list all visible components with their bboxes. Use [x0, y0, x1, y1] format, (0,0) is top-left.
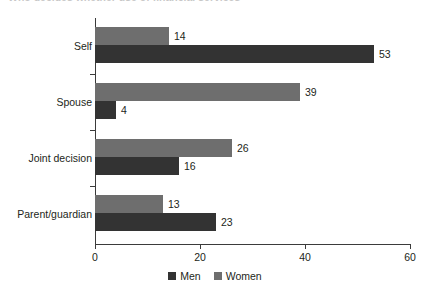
legend-swatch-men-icon: [168, 272, 176, 280]
bar-value-spouse-men: 4: [121, 104, 127, 116]
category-label-joint: Joint decision: [28, 152, 92, 164]
x-axis-line: [95, 244, 411, 245]
bar-self-women: [95, 27, 169, 45]
plot-area: 0 20 40 60 Self Spouse Joint decision Pa…: [0, 0, 430, 295]
category-label-spouse: Spouse: [56, 96, 92, 108]
legend-label-men: Men: [180, 270, 200, 282]
x-axis-tick: [200, 244, 201, 249]
x-axis-label-60: 60: [404, 251, 416, 263]
bar-value-parent-women: 13: [168, 198, 180, 210]
bar-spouse-women: [95, 83, 300, 101]
y-axis-tick: [90, 130, 95, 131]
legend-swatch-women-icon: [214, 272, 222, 280]
x-axis-label-20: 20: [194, 251, 206, 263]
legend-item-men[interactable]: Men: [168, 270, 200, 282]
x-axis-label-0: 0: [92, 251, 98, 263]
chart-legend: Men Women: [0, 270, 430, 282]
x-axis-tick: [95, 244, 96, 249]
category-label-parent: Parent/guardian: [17, 208, 92, 220]
y-axis-tick: [90, 186, 95, 187]
bar-value-spouse-women: 39: [305, 86, 317, 98]
bar-parent-men: [95, 213, 216, 231]
bar-joint-women: [95, 139, 232, 157]
x-axis-label-40: 40: [299, 251, 311, 263]
bar-spouse-men: [95, 101, 116, 119]
bar-value-joint-women: 26: [237, 142, 249, 154]
bar-value-self-women: 14: [174, 30, 186, 42]
bar-value-self-men: 53: [379, 48, 391, 60]
bar-joint-men: [95, 157, 179, 175]
legend-label-women: Women: [226, 270, 262, 282]
legend-item-women[interactable]: Women: [214, 270, 262, 282]
bar-self-men: [95, 45, 374, 63]
bar-value-parent-men: 23: [221, 216, 233, 228]
x-axis-tick: [305, 244, 306, 249]
bar-value-joint-men: 16: [184, 160, 196, 172]
bar-parent-women: [95, 195, 163, 213]
chart-container: Who decides whether use of financial ser…: [0, 0, 430, 295]
y-axis-tick: [90, 74, 95, 75]
category-label-self: Self: [74, 40, 92, 52]
x-axis-tick: [410, 244, 411, 249]
